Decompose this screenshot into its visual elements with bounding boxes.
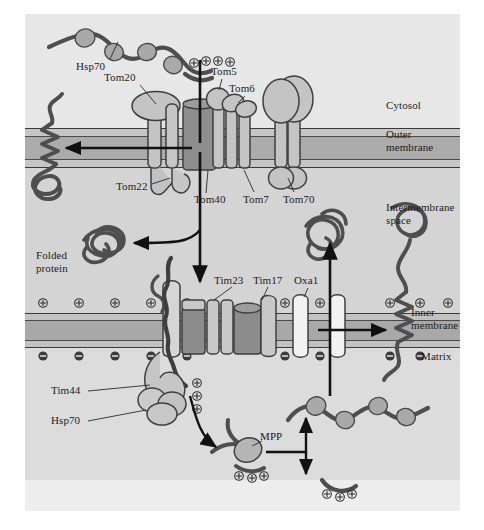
label-inner-membrane: Inner membrane (411, 306, 458, 331)
label-tom5: Tom5 (211, 65, 237, 78)
tim17-channel (221, 296, 276, 357)
label-tom20: Tom20 (104, 71, 136, 84)
label-tom6: Tom6 (229, 82, 255, 95)
label-oxa1: Oxa1 (294, 274, 318, 287)
label-folded-protein: Folded protein (36, 249, 68, 274)
label-tom70: Tom70 (283, 193, 315, 206)
label-intermembrane-space: Intermembrane space (386, 201, 455, 226)
label-tim23: Tim23 (214, 274, 243, 287)
label-mpp: MPP (260, 430, 282, 443)
figure-canvas (0, 0, 484, 530)
label-tim44: Tim44 (51, 384, 80, 397)
label-hsp70-matrix: Hsp70 (51, 414, 80, 427)
label-tom22: Tom22 (116, 180, 148, 193)
label-outer-membrane: Outer membrane (386, 128, 433, 153)
label-hsp70-cytosolic: Hsp70 (76, 60, 105, 73)
label-tom7: Tom7 (243, 193, 269, 206)
label-matrix: Matrix (421, 350, 452, 363)
label-tom40: Tom40 (194, 193, 226, 206)
label-cytosol: Cytosol (386, 99, 421, 112)
mitochondrial-protein-import-figure: Hsp70 Tom20 Tom5 Tom6 Tom22 Tom40 Tom7 T… (0, 0, 484, 530)
label-tim17: Tim17 (253, 274, 282, 287)
